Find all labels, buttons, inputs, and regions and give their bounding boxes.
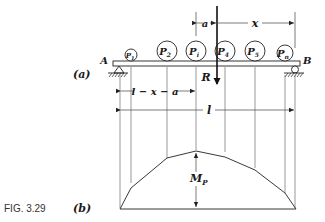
load-p1: P1 bbox=[125, 49, 137, 61]
load-p4: P4 bbox=[215, 41, 235, 61]
moment-diagram: MP bbox=[120, 151, 296, 209]
moment-label: MP bbox=[189, 172, 208, 187]
dim-l-x-a-label: l − x − a bbox=[132, 86, 179, 97]
load-pi: Pi bbox=[186, 41, 206, 61]
resultant-label: R bbox=[200, 71, 210, 84]
dimension-l: l bbox=[121, 104, 294, 117]
load-pn: Pn bbox=[276, 45, 293, 61]
beam-moment-diagram: a x P1P2PiP4P5Pn R A B bbox=[0, 0, 325, 222]
support-a-label: A bbox=[99, 55, 108, 66]
dim-x-label: x bbox=[251, 17, 259, 30]
dimension-l-x-a: l − x − a bbox=[121, 86, 195, 97]
beam bbox=[113, 61, 300, 66]
dim-l-label: l bbox=[207, 104, 211, 117]
part-b-label: (b) bbox=[73, 202, 91, 215]
load-p5: P5 bbox=[245, 41, 265, 61]
dimension-a-x: a x bbox=[196, 12, 295, 48]
loads: P1P2PiP4P5Pn bbox=[125, 41, 293, 61]
load-p2: P2 bbox=[157, 41, 177, 61]
support-b-label: B bbox=[302, 55, 311, 66]
dim-a-label: a bbox=[202, 18, 208, 29]
figure-caption: FIG. 3.29 bbox=[4, 203, 46, 214]
part-a-label: (a) bbox=[73, 68, 91, 81]
